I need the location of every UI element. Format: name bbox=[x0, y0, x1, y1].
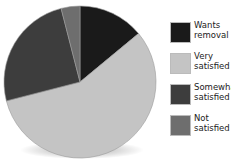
legend-label: Very satisfied bbox=[194, 51, 231, 71]
legend-item-wants-removal: Wants removal bbox=[170, 20, 231, 48]
legend-label: Not satisfied bbox=[194, 113, 231, 133]
legend-swatch bbox=[170, 22, 191, 43]
pie-chart bbox=[0, 0, 170, 159]
pie-slices bbox=[4, 6, 156, 158]
legend-swatch bbox=[170, 53, 191, 74]
legend-label: Wants removal bbox=[194, 20, 231, 40]
legend-item-somewhat-satisfied: Somewhat satisfied bbox=[170, 82, 231, 110]
legend-swatch bbox=[170, 84, 191, 105]
legend-item-very-satisfied: Very satisfied bbox=[170, 51, 231, 79]
legend-swatch bbox=[170, 115, 191, 136]
legend-label: Somewhat satisfied bbox=[194, 82, 231, 102]
legend-item-not-satisfied: Not satisfied bbox=[170, 113, 231, 141]
